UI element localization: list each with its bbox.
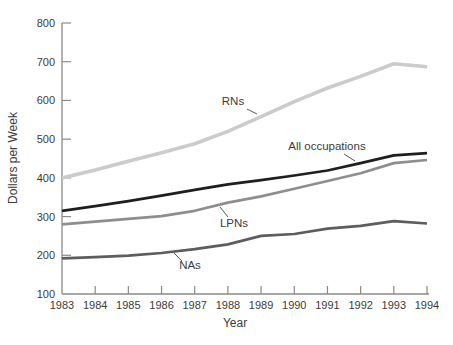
x-tick-label: 1992 xyxy=(348,299,372,311)
y-tick-label: 300 xyxy=(37,211,55,223)
x-tick-label: 1983 xyxy=(50,299,74,311)
x-tick-label: 1988 xyxy=(216,299,240,311)
x-tick-label: 1985 xyxy=(116,299,140,311)
leader-line-lpns xyxy=(220,207,228,217)
leader-line-rns xyxy=(247,109,257,114)
series-label-nas: NAs xyxy=(179,259,201,271)
y-tick-label: 200 xyxy=(37,249,55,261)
series-label-all-occupations: All occupations xyxy=(288,140,366,152)
y-tick-label: 800 xyxy=(37,17,55,29)
series-line-lpns xyxy=(62,160,427,224)
x-tick-label: 1987 xyxy=(182,299,206,311)
chart-figure: 1002003004005006007008001983198419851986… xyxy=(0,0,453,345)
series-line-all-occupations xyxy=(62,153,427,211)
x-tick-label: 1993 xyxy=(382,299,406,311)
leader-line-all-occupations xyxy=(344,154,355,161)
x-tick-label: 1989 xyxy=(249,299,273,311)
y-tick-label: 600 xyxy=(37,94,55,106)
x-tick-label: 1991 xyxy=(315,299,339,311)
y-axis-title: Dollars per Week xyxy=(6,111,20,204)
y-tick-label: 700 xyxy=(37,56,55,68)
y-tick-label: 400 xyxy=(37,172,55,184)
series-label-rns: RNs xyxy=(222,95,245,107)
x-tick-label: 1990 xyxy=(282,299,306,311)
y-tick-label: 500 xyxy=(37,133,55,145)
x-axis-title: Year xyxy=(223,316,247,330)
x-tick-label: 1994 xyxy=(415,299,439,311)
series-label-lpns: LPNs xyxy=(220,217,248,229)
x-tick-label: 1986 xyxy=(149,299,173,311)
x-tick-label: 1984 xyxy=(83,299,107,311)
earnings-line-chart: 1002003004005006007008001983198419851986… xyxy=(0,0,453,345)
